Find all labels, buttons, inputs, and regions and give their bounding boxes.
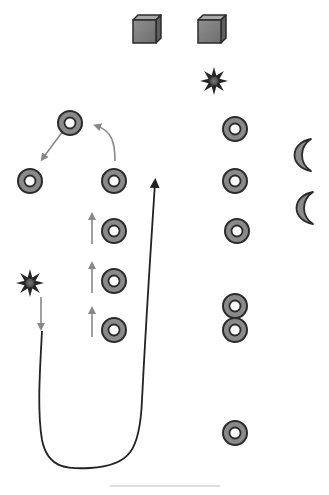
ring-icon [102, 318, 126, 342]
loop-arrow-icon [39, 183, 155, 468]
ring-icon [223, 169, 247, 193]
cube-icon [133, 15, 161, 43]
star-icon [16, 269, 44, 297]
arrow-middle-to-apex-icon [97, 126, 115, 161]
ring-icon [223, 318, 247, 342]
connector-layer [39, 126, 220, 486]
shape-layer [16, 15, 313, 445]
crescent-moon-icon [297, 192, 314, 224]
ring-icon [102, 169, 126, 193]
ring-icon [58, 111, 82, 135]
cube-icon [198, 15, 226, 43]
arrow-apex-to-left-icon [43, 131, 63, 158]
diagram-canvas [0, 0, 329, 495]
ring-icon [102, 219, 126, 243]
ring-icon [223, 294, 247, 318]
ring-icon [102, 269, 126, 293]
crescent-moon-icon [295, 139, 312, 171]
ring-icon [223, 117, 247, 141]
ring-icon [225, 219, 249, 243]
ring-icon [223, 421, 247, 445]
star-icon [200, 67, 228, 95]
ring-icon [18, 169, 42, 193]
